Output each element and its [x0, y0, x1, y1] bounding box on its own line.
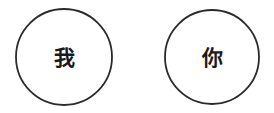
node-group-ni[interactable]: 你	[165, 10, 259, 104]
diagram-svg: 我 你	[0, 0, 274, 113]
diagram-canvas: 我 你	[0, 0, 274, 113]
node-label-ni: 你	[201, 46, 223, 70]
node-label-wo: 我	[54, 46, 75, 70]
node-group-wo[interactable]: 我	[16, 9, 112, 105]
